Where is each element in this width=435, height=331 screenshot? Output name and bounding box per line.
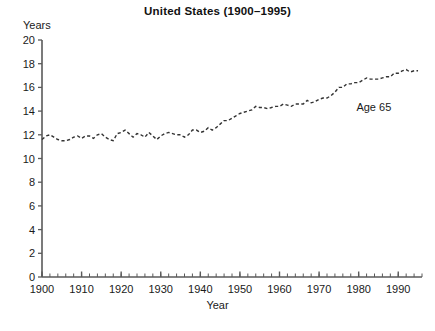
svg-text:16: 16 <box>23 81 35 93</box>
plot-area: 0246810121416182019001910192019301940195… <box>0 0 435 331</box>
svg-text:6: 6 <box>29 200 35 212</box>
svg-text:1960: 1960 <box>267 283 291 295</box>
svg-text:12: 12 <box>23 129 35 141</box>
svg-text:1950: 1950 <box>228 283 252 295</box>
svg-text:4: 4 <box>29 224 35 236</box>
axis-tick-labels: 0246810121416182019001910192019301940195… <box>23 34 411 295</box>
svg-text:1990: 1990 <box>386 283 410 295</box>
svg-text:1920: 1920 <box>109 283 133 295</box>
axes <box>42 40 422 277</box>
svg-text:10: 10 <box>23 153 35 165</box>
svg-text:2: 2 <box>29 247 35 259</box>
x-axis-title: Year <box>0 299 435 311</box>
svg-text:0: 0 <box>29 271 35 283</box>
svg-text:1980: 1980 <box>346 283 370 295</box>
svg-text:8: 8 <box>29 176 35 188</box>
svg-text:20: 20 <box>23 34 35 46</box>
svg-text:1910: 1910 <box>69 283 93 295</box>
axis-ticks <box>38 40 422 277</box>
svg-text:14: 14 <box>23 105 35 117</box>
chart-figure: United States (1900–1995) Years 02468101… <box>0 0 435 331</box>
svg-text:1970: 1970 <box>307 283 331 295</box>
svg-text:1930: 1930 <box>149 283 173 295</box>
svg-text:18: 18 <box>23 58 35 70</box>
svg-text:1900: 1900 <box>30 283 54 295</box>
svg-text:1940: 1940 <box>188 283 212 295</box>
series-label-age-65: Age 65 <box>356 101 391 113</box>
